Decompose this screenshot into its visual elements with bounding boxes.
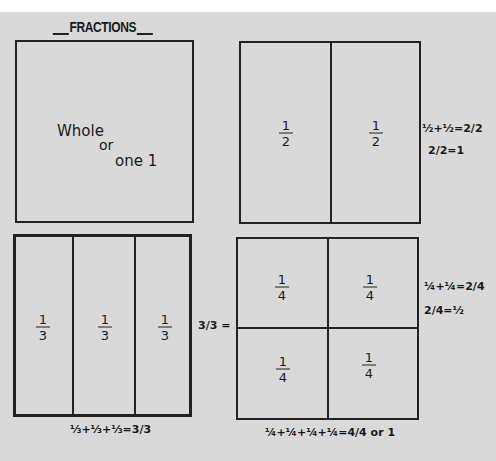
or-label: or: [99, 137, 113, 153]
quarter-fraction-top-right: 14: [363, 273, 377, 302]
quarters-sum-note: ¼+¼=2/4: [424, 280, 485, 293]
thirds-divider-1: [72, 237, 74, 414]
half-fraction-left: 12: [279, 119, 293, 148]
halves-box: 12 12: [239, 41, 421, 224]
title-underline-left: [53, 33, 69, 35]
whole-label: Whole: [57, 122, 104, 140]
whole-box: Whole or one 1: [15, 40, 194, 223]
quarters-box: 14 14 14 14: [236, 237, 419, 420]
one-label: one 1: [115, 152, 157, 170]
title-underline-right: [137, 33, 153, 35]
title-text: FRACTIONS: [70, 18, 136, 35]
halves-sum-note: ½+½=2/2: [422, 122, 483, 135]
quarter-fraction-bottom-left: 14: [276, 355, 290, 384]
quarters-divider-horizontal: [238, 327, 417, 329]
thirds-box: 13 13 13: [13, 234, 192, 417]
thirds-sum-note: ⅓+⅓+⅓=3/3: [70, 423, 151, 436]
half-fraction-right: 12: [369, 119, 383, 148]
halves-divider: [330, 43, 332, 222]
thirds-divider-2: [134, 237, 136, 414]
third-fraction-1: 13: [36, 313, 50, 342]
third-fraction-3: 13: [158, 313, 172, 342]
halves-equals-one-note: 2/2=1: [428, 144, 464, 157]
page-title: FRACTIONS: [52, 18, 154, 35]
thirds-side-note: 3/3 =: [198, 319, 230, 332]
quarter-fraction-bottom-right: 14: [362, 351, 376, 380]
third-fraction-2: 13: [98, 313, 112, 342]
quarters-equals-half-note: 2/4=½: [424, 304, 464, 317]
quarters-total-note: ¼+¼+¼+¼=4/4 or 1: [265, 426, 395, 439]
quarter-fraction-top-left: 14: [275, 273, 289, 302]
